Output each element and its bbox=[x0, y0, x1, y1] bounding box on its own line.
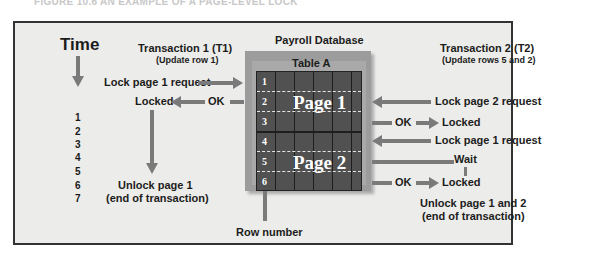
t2-lock-page2-request: Lock page 2 request bbox=[435, 95, 541, 107]
t2-wait: Wait bbox=[454, 153, 477, 165]
t2-lock-page1-request: Lock page 1 request bbox=[435, 134, 541, 146]
row-number: 1 bbox=[262, 76, 267, 87]
row-number-label: Row number bbox=[236, 226, 303, 238]
t1-request-arrowhead bbox=[233, 77, 243, 89]
t1-ok-arrow-tail bbox=[230, 100, 244, 104]
time-tick: 4 bbox=[75, 152, 81, 163]
t2-title: Transaction 2 (T2) bbox=[440, 42, 534, 54]
time-tick: 2 bbox=[75, 126, 81, 137]
t2-ok2: OK bbox=[395, 176, 412, 188]
t2-ok2-arrow-tail bbox=[372, 181, 392, 185]
t1-unlock-note: (end of transaction) bbox=[106, 192, 209, 204]
t1-unlock: Unlock page 1 bbox=[118, 179, 193, 191]
row-number-pointer bbox=[263, 191, 267, 221]
t2-ok1: OK bbox=[395, 116, 412, 128]
time-title: Time bbox=[60, 35, 99, 55]
row-number: 4 bbox=[262, 136, 267, 147]
t1-locked: Locked bbox=[135, 95, 174, 107]
figure-caption: FIGURE 10.6 AN EXAMPLE OF A PAGE-LEVEL L… bbox=[34, 0, 298, 7]
t2-ok1-arrow-tail bbox=[372, 121, 392, 125]
page-1-label: Page 1 bbox=[293, 92, 346, 114]
time-tick: 3 bbox=[75, 139, 81, 150]
t2-req1-arrow bbox=[381, 139, 431, 143]
t1-ok: OK bbox=[208, 95, 225, 107]
time-tick: 1 bbox=[75, 112, 81, 123]
row-number: 3 bbox=[262, 116, 267, 127]
t2-subtitle: (Update rows 5 and 2) bbox=[442, 55, 536, 65]
t1-subtitle: (Update row 1) bbox=[156, 55, 219, 65]
time-tick: 5 bbox=[75, 166, 81, 177]
t2-unlock: Unlock page 1 and 2 bbox=[420, 197, 526, 209]
t2-locked1: Locked bbox=[442, 116, 481, 128]
database-title: Payroll Database bbox=[275, 34, 364, 46]
time-arrow-shaft bbox=[76, 56, 80, 78]
t1-title: Transaction 1 (T1) bbox=[138, 42, 232, 54]
table-grid: 1 2 3 4 5 6 Page 1 Page 2 bbox=[256, 71, 362, 191]
page-2-label: Page 2 bbox=[293, 152, 346, 174]
t2-ok2-arrow bbox=[416, 181, 430, 185]
time-arrow-head bbox=[72, 76, 84, 87]
row-number: 6 bbox=[262, 176, 267, 187]
table-title: Table A bbox=[292, 57, 331, 69]
row-number: 2 bbox=[262, 96, 267, 107]
t1-request-arrow bbox=[198, 81, 234, 85]
row-number: 5 bbox=[262, 156, 267, 167]
t2-ok1-arrowhead bbox=[429, 117, 439, 129]
t2-req2-arrow bbox=[381, 100, 431, 104]
t1-duration-arrowhead bbox=[146, 163, 158, 174]
t1-duration-line bbox=[150, 110, 154, 165]
t2-unlock-note: (end of transaction) bbox=[422, 210, 525, 222]
time-tick: 7 bbox=[75, 193, 81, 204]
time-tick: 6 bbox=[75, 180, 81, 191]
t2-ok2-arrowhead bbox=[429, 177, 439, 189]
t1-ok-arrow bbox=[180, 100, 205, 104]
t2-wait-connector bbox=[464, 167, 467, 176]
t1-lock-request: Lock page 1 request bbox=[104, 76, 210, 88]
t2-wait-line bbox=[372, 160, 454, 164]
t2-locked2: Locked bbox=[442, 176, 481, 188]
t2-ok1-arrow bbox=[416, 121, 430, 125]
page-divider bbox=[257, 131, 361, 133]
